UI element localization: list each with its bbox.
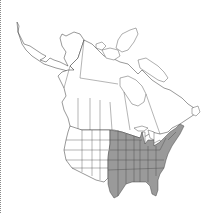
banks-island xyxy=(96,42,106,50)
lake-huron xyxy=(148,130,154,140)
newfoundland xyxy=(192,106,200,116)
ellesmere-island xyxy=(116,28,138,52)
us-west xyxy=(64,126,110,182)
north-america-distribution-map: North America distribution map xyxy=(0,0,218,213)
